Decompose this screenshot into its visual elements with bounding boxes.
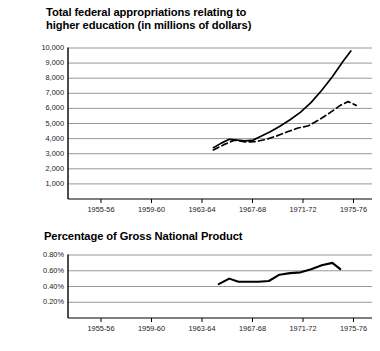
- y-axis-tick-label: 0.20%: [24, 297, 64, 306]
- data-line-dashed-line: [213, 102, 356, 150]
- y-axis-tick-label: 5,000: [24, 119, 64, 128]
- x-axis-tick-label: 1975-76: [324, 205, 380, 214]
- plot-area-top: [0, 0, 380, 228]
- y-axis-tick-label: 8,000: [24, 73, 64, 82]
- y-axis-tick-label: 3,000: [24, 149, 64, 158]
- y-axis-tick-label: 0.60%: [24, 266, 64, 275]
- y-axis-tick-label: 2,000: [24, 164, 64, 173]
- y-axis-tick-label: 0.40%: [24, 282, 64, 291]
- y-axis-tick-label: 7,000: [24, 88, 64, 97]
- y-axis-tick-label: 10,000: [24, 43, 64, 52]
- x-axis-tick-label: 1975-76: [324, 324, 380, 333]
- y-axis-tick-label: 0.80%: [24, 250, 64, 259]
- y-axis-tick-label: 9,000: [24, 58, 64, 67]
- data-line-gnp-line: [219, 263, 341, 284]
- chart-federal-appropriations: Total federal appropriations relating to…: [0, 0, 380, 228]
- y-axis-tick-label: 1,000: [24, 179, 64, 188]
- y-axis-tick-label: 6,000: [24, 103, 64, 112]
- y-axis-tick-label: 4,000: [24, 134, 64, 143]
